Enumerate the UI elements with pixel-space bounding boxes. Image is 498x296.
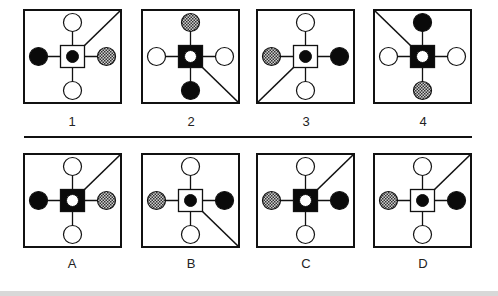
question-panel-3 — [256, 9, 355, 104]
left-circle — [30, 192, 48, 210]
bottom-circle — [297, 82, 315, 100]
option-label-c[interactable]: C — [286, 256, 326, 271]
top-circle — [182, 158, 200, 176]
bottom-circle — [182, 82, 200, 100]
top-circle — [64, 158, 82, 176]
right-circle — [98, 48, 116, 66]
option-panel-a[interactable] — [23, 153, 122, 248]
bottom-circle — [414, 226, 432, 244]
top-circle — [64, 14, 82, 32]
bottom-circle — [414, 82, 432, 100]
center-dot — [300, 195, 312, 207]
question-label-4: 4 — [403, 114, 443, 129]
right-circle — [331, 192, 349, 210]
question-label-1: 1 — [52, 114, 92, 129]
center-dot — [67, 195, 79, 207]
top-circle — [414, 14, 432, 32]
option-panel-b[interactable] — [141, 153, 240, 248]
bottom-circle — [64, 82, 82, 100]
bottom-circle — [64, 226, 82, 244]
question-label-2: 2 — [171, 114, 211, 129]
bottom-circle — [182, 226, 200, 244]
right-circle — [448, 192, 466, 210]
bottom-edge-band — [0, 291, 498, 296]
left-circle — [380, 192, 398, 210]
question-panel-2 — [141, 9, 240, 104]
right-circle — [331, 48, 349, 66]
option-label-b[interactable]: B — [171, 256, 211, 271]
option-panel-d[interactable] — [373, 153, 472, 248]
center-dot — [417, 195, 429, 207]
left-circle — [263, 192, 281, 210]
left-circle — [263, 48, 281, 66]
top-circle — [414, 158, 432, 176]
center-dot — [300, 51, 312, 63]
option-label-a[interactable]: A — [52, 256, 92, 271]
left-circle — [380, 48, 398, 66]
right-circle — [98, 192, 116, 210]
right-circle — [448, 48, 466, 66]
left-circle — [148, 48, 166, 66]
top-circle — [297, 158, 315, 176]
center-dot — [417, 51, 429, 63]
center-dot — [185, 195, 197, 207]
left-circle — [148, 192, 166, 210]
divider-line — [24, 136, 472, 138]
center-dot — [185, 51, 197, 63]
question-panel-4 — [373, 9, 472, 104]
right-circle — [216, 48, 234, 66]
question-panel-1 — [23, 9, 122, 104]
option-label-d[interactable]: D — [403, 256, 443, 271]
center-dot — [67, 51, 79, 63]
top-circle — [297, 14, 315, 32]
left-circle — [30, 48, 48, 66]
question-label-3: 3 — [286, 114, 326, 129]
top-circle — [182, 14, 200, 32]
bottom-circle — [297, 226, 315, 244]
option-panel-c[interactable] — [256, 153, 355, 248]
right-circle — [216, 192, 234, 210]
